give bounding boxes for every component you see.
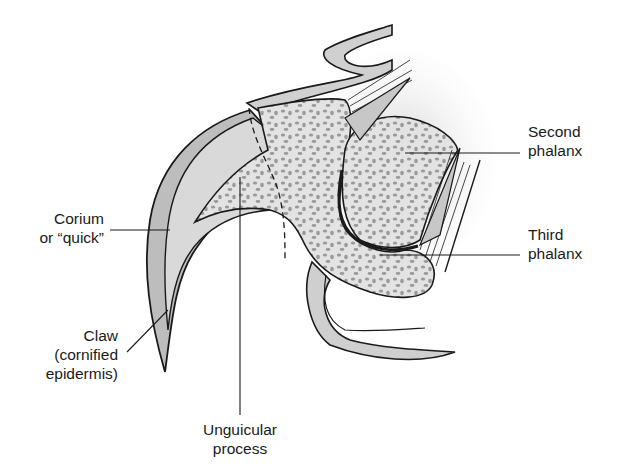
label-corium: Corium or “quick”	[0, 209, 104, 247]
label-unguicular-process: Unguicular process	[180, 420, 300, 458]
label-second-phalanx: Second phalanx	[528, 122, 582, 160]
label-claw: Claw (cornified epidermis)	[0, 326, 118, 383]
corium-layer	[165, 118, 275, 330]
label-third-phalanx: Third phalanx	[528, 225, 582, 263]
